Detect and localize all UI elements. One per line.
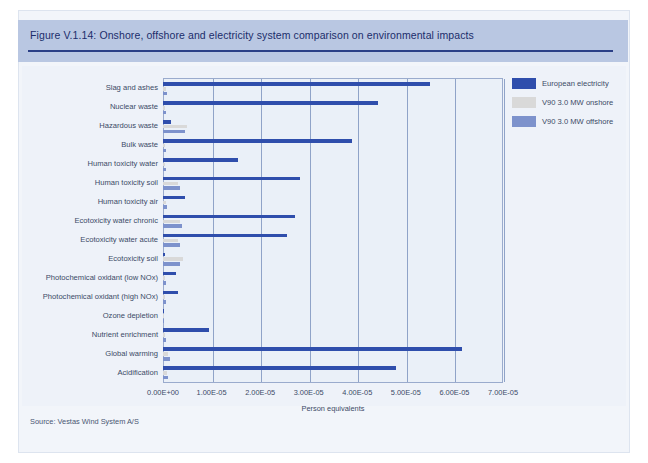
bar xyxy=(163,144,165,148)
bar xyxy=(163,111,166,115)
bar-group xyxy=(163,325,503,344)
bar xyxy=(163,300,166,304)
bar xyxy=(163,205,167,209)
bar xyxy=(163,262,180,266)
bar xyxy=(163,177,300,181)
y-axis-tick-label: Human toxicity air xyxy=(0,197,158,207)
bar xyxy=(163,333,165,337)
bar xyxy=(163,224,182,228)
bar xyxy=(163,243,180,247)
bar xyxy=(163,186,180,190)
bar xyxy=(163,130,185,134)
x-axis-tick-label: 6.00E-05 xyxy=(439,388,469,397)
bar xyxy=(163,125,187,129)
source-note: Source: Vestas Wind System A/S xyxy=(30,417,139,426)
y-axis-tick-label: Slag and ashes xyxy=(0,83,158,93)
bar xyxy=(163,201,166,205)
bar xyxy=(163,158,238,162)
x-axis-tick-label: 4.00E-05 xyxy=(342,388,372,397)
y-axis-tick-label: Photochemical oxidant (high NOx) xyxy=(0,292,158,302)
x-axis-tick-label: 1.00E-05 xyxy=(197,388,227,397)
chart-legend: European electricityV90 3.0 MW onshoreV9… xyxy=(512,76,624,133)
y-axis-tick-label: Ecotoxicity water chronic xyxy=(0,216,158,226)
bar xyxy=(163,239,178,243)
y-axis-tick-label: Hazardous waste xyxy=(0,121,158,131)
bar-group xyxy=(163,344,503,363)
bar xyxy=(163,163,165,167)
y-axis-labels: Slag and ashesNuclear wasteHazardous was… xyxy=(0,79,158,382)
bar xyxy=(163,168,166,172)
bar xyxy=(163,92,167,96)
y-axis-tick-label: Acidification xyxy=(0,368,158,378)
bar-rows xyxy=(163,79,503,382)
bar xyxy=(163,106,165,110)
bar xyxy=(163,87,166,91)
bar xyxy=(163,234,287,238)
y-axis-tick-label: Nuclear waste xyxy=(0,102,158,112)
bar xyxy=(163,139,352,143)
bar xyxy=(163,314,164,318)
bar xyxy=(163,352,168,356)
title-underline xyxy=(28,50,613,52)
legend-swatch-icon xyxy=(512,97,536,108)
bar xyxy=(163,338,166,342)
bar xyxy=(163,328,209,332)
bar-group xyxy=(163,287,503,306)
bar xyxy=(163,120,171,124)
legend-item[interactable]: European electricity xyxy=(512,76,624,95)
page-title: Figure V.1.14: Onshore, offshore and ele… xyxy=(30,29,474,41)
legend-item[interactable]: V90 3.0 MW onshore xyxy=(512,95,624,114)
bar xyxy=(163,182,178,186)
bar-group xyxy=(163,117,503,136)
bar xyxy=(163,257,183,261)
bar-group xyxy=(163,268,503,287)
x-axis-tick-label: 0.00E+00 xyxy=(147,388,179,397)
bar xyxy=(163,366,396,370)
y-axis-tick-label: Bulk waste xyxy=(0,140,158,150)
y-axis-tick-label: Photochemical oxidant (low NOx) xyxy=(0,273,158,283)
bar xyxy=(163,272,176,276)
y-axis-tick-label: Human toxicity water xyxy=(0,159,158,169)
gridline xyxy=(504,79,505,382)
legend-label: V90 3.0 MW offshore xyxy=(542,116,613,127)
legend-swatch-icon xyxy=(512,116,536,127)
y-axis-tick-label: Ecotoxicity water acute xyxy=(0,235,158,245)
bar xyxy=(163,309,164,313)
legend-swatch-icon xyxy=(512,78,536,89)
bar-group xyxy=(163,193,503,212)
y-axis-tick-label: Global warming xyxy=(0,349,158,359)
bar xyxy=(163,101,378,105)
legend-item[interactable]: V90 3.0 MW offshore xyxy=(512,114,624,133)
bar-group xyxy=(163,363,503,382)
bar-group xyxy=(163,231,503,250)
x-axis-labels: 0.00E+001.00E-052.00E-053.00E-054.00E-05… xyxy=(0,388,648,402)
bar xyxy=(163,291,178,295)
bar xyxy=(163,196,185,200)
bar xyxy=(163,276,165,280)
bar-group xyxy=(163,249,503,268)
bar xyxy=(163,376,168,380)
legend-label: V90 3.0 MW onshore xyxy=(542,97,613,108)
bar xyxy=(163,215,295,219)
figure-root: Figure V.1.14: Onshore, offshore and ele… xyxy=(0,0,648,463)
bar xyxy=(163,149,166,153)
legend-label: European electricity xyxy=(542,78,609,89)
x-axis-tick-label: 7.00E-05 xyxy=(488,388,518,397)
x-axis-tick-label: 5.00E-05 xyxy=(391,388,421,397)
bar-group xyxy=(163,306,503,325)
bar-group xyxy=(163,79,503,98)
bar xyxy=(163,319,164,323)
y-axis-tick-label: Human toxicity soil xyxy=(0,178,158,188)
bar xyxy=(163,220,180,224)
bar xyxy=(163,347,462,351)
bar-group xyxy=(163,98,503,117)
x-axis-tick-label: 2.00E-05 xyxy=(245,388,275,397)
bar xyxy=(163,371,167,375)
x-axis-title: Person equivalents xyxy=(163,404,503,413)
bar xyxy=(163,295,165,299)
bar-group xyxy=(163,212,503,231)
bar-group xyxy=(163,136,503,155)
y-axis-tick-label: Nutrient enrichment xyxy=(0,330,158,340)
x-axis-tick-label: 3.00E-05 xyxy=(294,388,324,397)
bar xyxy=(163,281,166,285)
